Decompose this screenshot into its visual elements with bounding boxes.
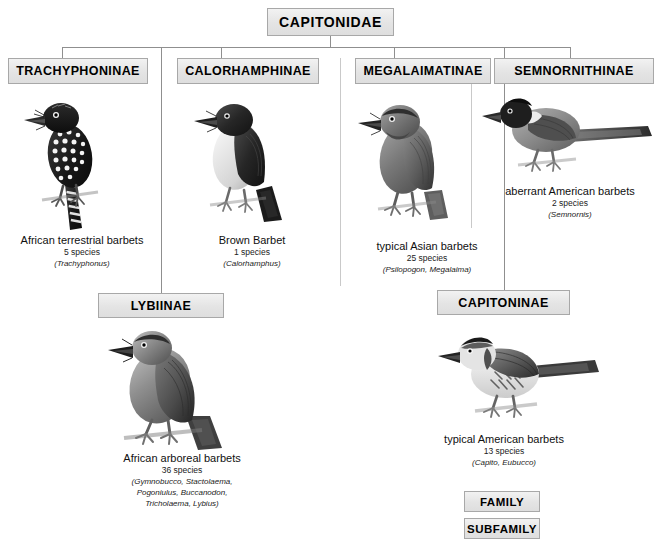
bird-illustration-lybius [98,320,248,460]
caption-species-count-megalaima: 25 species [344,253,510,263]
connector-drop-calorhamphinae [221,47,222,58]
subfamily-box-capitoninae[interactable]: CAPITONINAE [437,290,570,315]
caption-species-count-lybius: 36 species [88,465,276,475]
subfamily-label-megalaimatinae: MEGALAIMATINAE [363,64,482,78]
caption-common-name-trachyphonus: African terrestrial barbets [2,234,162,247]
column-divider-2 [340,58,341,286]
bird-illustration-megalaima [352,86,482,236]
subfamily-box-lybiinae[interactable]: LYBIINAE [98,293,224,318]
subfamily-label-trachyphoninae: TRACHYPHONINAE [16,64,140,78]
caption-species-count-calorhamphus: 1 species [182,247,322,257]
connector-drop-megalaimatinae [394,47,395,58]
caption-common-name-semnornis: aberrant American barbets [482,185,658,198]
bird-illustration-trachyphonus [18,88,148,233]
caption-genera-megalaima: (Psilopogon, Megalaima) [344,264,510,275]
caption-semnornithinae: aberrant American barbets 2 species (Sem… [482,185,658,220]
connector-drop-trachyphoninae [62,47,63,58]
bird-illustration-capito [435,318,605,428]
caption-genera-calorhamphus: (Calorhamphus) [182,258,322,269]
legend-label-family: FAMILY [480,496,524,508]
bird-illustration-semnornis [480,86,655,186]
caption-genera-lybius-line3: Tricholaema, Lybius) [88,498,276,509]
caption-common-name-lybius: African arboreal barbets [88,452,276,465]
subfamily-box-semnornithinae[interactable]: SEMNORNITHINAE [494,58,654,84]
bird-illustration-calorhamphus [190,86,315,234]
caption-common-name-calorhamphus: Brown Barbet [182,234,322,247]
family-label: CAPITONIDAE [279,14,382,30]
caption-genera-trachyphonus: (Trachyphonus) [2,258,162,269]
caption-trachyphoninae: African terrestrial barbets 5 species (T… [2,234,162,269]
caption-lybiinae: African arboreal barbets 36 species (Gym… [88,452,276,509]
caption-megalaimatinae: typical Asian barbets 25 species (Psilop… [344,240,510,275]
caption-common-name-megalaima: typical Asian barbets [344,240,510,253]
family-box-capitonidae[interactable]: CAPITONIDAE [267,8,394,36]
subfamily-box-megalaimatinae[interactable]: MEGALAIMATINAE [355,58,491,84]
caption-genera-lybius-line1: (Gymnobucco, Stactolaema, [88,476,276,487]
subfamily-label-lybiinae: LYBIINAE [131,299,191,313]
caption-calorhamphinae: Brown Barbet 1 species (Calorhamphus) [182,234,322,269]
connector-drop-semnornithinae [570,47,571,58]
legend-box-family: FAMILY [464,491,540,512]
caption-genera-semnornis: (Semnornis) [482,209,658,220]
caption-genera-capito: (Capito, Eubucco) [414,457,594,468]
caption-genera-lybius-line2: Pogoniulus, Buccanodon, [88,487,276,498]
caption-species-count-capito: 13 species [414,446,594,456]
subfamily-label-capitoninae: CAPITONINAE [458,296,548,310]
subfamily-label-semnornithinae: SEMNORNITHINAE [514,64,634,78]
cladogram-canvas: CAPITONIDAE TRACHYPHONINAE CALORHAMPHINA… [0,0,662,543]
subfamily-box-trachyphoninae[interactable]: TRACHYPHONINAE [8,58,148,84]
subfamily-box-calorhamphinae[interactable]: CALORHAMPHINAE [177,58,319,84]
legend-label-subfamily: SUBFAMILY [467,523,537,535]
caption-capitoninae: typical American barbets 13 species (Cap… [414,433,594,468]
connector-horizontal-bus [62,47,571,48]
subfamily-label-calorhamphinae: CALORHAMPHINAE [185,64,311,78]
caption-common-name-capito: typical American barbets [414,433,594,446]
caption-species-count-semnornis: 2 species [482,198,658,208]
legend-box-subfamily: SUBFAMILY [464,518,540,539]
caption-species-count-trachyphonus: 5 species [2,247,162,257]
connector-family-stem [330,36,331,47]
